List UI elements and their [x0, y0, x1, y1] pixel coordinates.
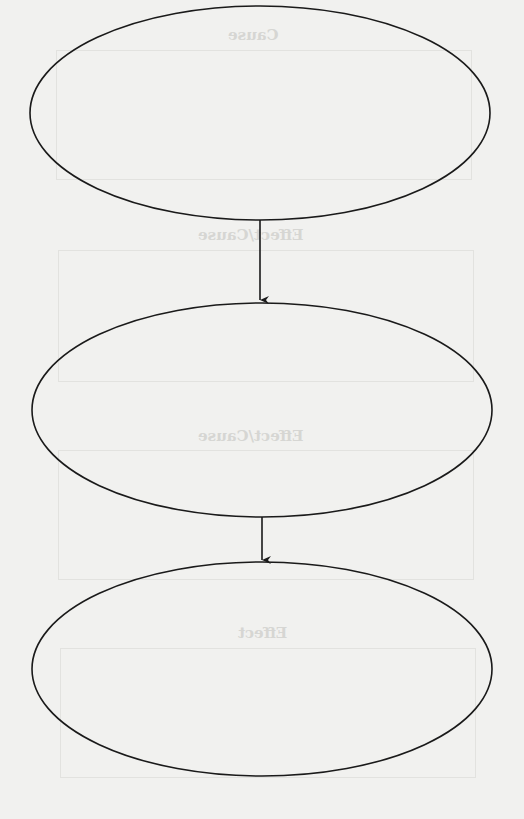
effect-ellipse[interactable] [32, 562, 492, 776]
cause-ellipse[interactable] [30, 6, 490, 220]
cause-effect-diagram [0, 0, 524, 819]
effect-cause-ellipse[interactable] [32, 303, 492, 517]
